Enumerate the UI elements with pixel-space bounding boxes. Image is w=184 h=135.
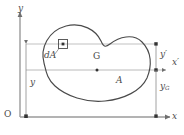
area-label: A bbox=[116, 76, 123, 85]
yG-dimension-label: yG bbox=[160, 82, 170, 92]
dot-icon bbox=[62, 43, 65, 46]
figure-canvas: y x O dA G A y y′ yG x′ bbox=[0, 0, 184, 135]
y-dimension-line bbox=[24, 44, 28, 118]
y-dimension-end-tick bbox=[24, 114, 28, 118]
yG-dimension-line bbox=[154, 70, 157, 118]
y-prime-dimension-label: y′ bbox=[160, 50, 167, 59]
y-dimension-label: y bbox=[30, 78, 35, 87]
yG-subscript: G bbox=[165, 85, 169, 91]
origin-label: O bbox=[4, 110, 11, 119]
x-prime-axis-label: x′ bbox=[172, 58, 179, 67]
area-element-dA bbox=[55, 40, 68, 55]
yG-bottom-tick bbox=[154, 114, 157, 117]
centroid-label: G bbox=[93, 52, 100, 61]
centroid-point-G bbox=[96, 69, 99, 72]
x-prime-mark: ′ bbox=[177, 57, 179, 67]
y-prime-top-tick bbox=[154, 42, 157, 45]
y-axis-label: y bbox=[18, 4, 23, 13]
y-prime-mark: ′ bbox=[165, 49, 167, 59]
area-element-label: dA bbox=[44, 51, 56, 60]
x-axis-label: x bbox=[172, 112, 177, 121]
area-region-outline bbox=[43, 25, 150, 101]
diagram-svg bbox=[0, 0, 184, 135]
y-prime-dimension-line bbox=[154, 42, 157, 72]
